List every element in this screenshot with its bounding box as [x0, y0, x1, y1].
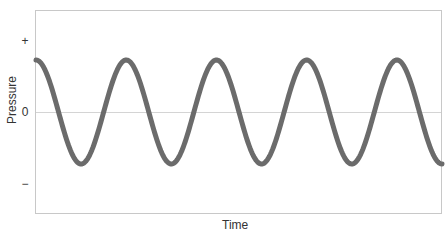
x-axis-label: Time — [222, 218, 248, 232]
plot-area — [0, 0, 447, 235]
y-tick-minus: − — [18, 177, 32, 191]
y-tick-zero: 0 — [18, 105, 32, 119]
pressure-time-chart: + 0 − Pressure Time — [0, 0, 447, 235]
y-tick-plus: + — [18, 34, 32, 48]
y-axis-label: Pressure — [5, 76, 19, 124]
